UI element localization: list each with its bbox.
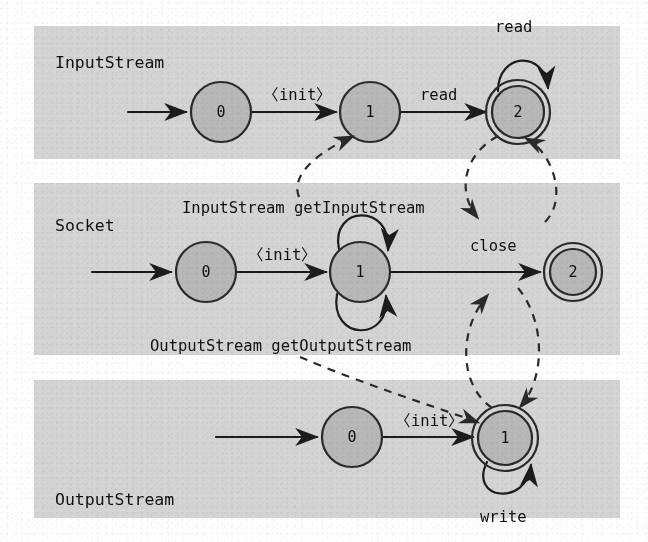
edge-label-getinputstream: InputStream getInputStream: [182, 199, 425, 217]
edge-label-so-init: 〈init〉: [248, 246, 317, 264]
diagram-canvas: InputStream Socket OutputStream 〈init〉 r…: [0, 0, 648, 542]
state-label: 1: [365, 103, 374, 121]
edge-label-write: write: [480, 508, 527, 526]
state-inputstream-1: 1: [340, 82, 400, 142]
state-outputstream-0: 0: [322, 407, 382, 467]
state-socket-2-accepting: 2: [544, 243, 602, 301]
state-socket-0: 0: [176, 242, 236, 302]
state-machine-svg: InputStream Socket OutputStream 〈init〉 r…: [0, 0, 648, 542]
edge-label-is-read: read: [420, 86, 457, 104]
state-outputstream-1-accepting: 1: [472, 405, 538, 471]
state-label: 0: [347, 428, 356, 446]
state-label: 2: [568, 263, 577, 281]
state-socket-1: 1: [330, 242, 390, 302]
state-label: 0: [201, 263, 210, 281]
state-label: 1: [355, 263, 364, 281]
state-label: 1: [500, 429, 509, 447]
edge-label-is-init: 〈init〉: [263, 86, 332, 104]
state-label: 0: [216, 103, 225, 121]
edge-label-getoutputstream: OutputStream getOutputStream: [150, 337, 411, 355]
band-title-socket: Socket: [55, 216, 115, 235]
state-inputstream-2-accepting: 2: [486, 80, 550, 144]
state-label: 2: [513, 103, 522, 121]
band-title-inputstream: InputStream: [55, 53, 164, 72]
state-inputstream-0: 0: [191, 82, 251, 142]
edge-label-os-init: 〈init〉: [395, 412, 464, 430]
band-title-outputstream: OutputStream: [55, 490, 174, 509]
edge-label-is2-self-read: read: [495, 18, 532, 36]
edge-label-close: close: [470, 237, 517, 255]
